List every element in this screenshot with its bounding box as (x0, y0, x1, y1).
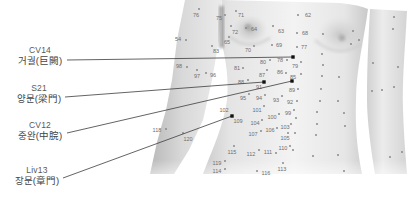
acupoint-dot (286, 59, 288, 61)
acupoint-dot (300, 61, 302, 63)
acupoint-dot (287, 132, 289, 134)
acupoint-number: 86 (277, 69, 283, 75)
acupoint-number: 113 (278, 166, 287, 172)
acupoint-number: 106 (265, 127, 274, 133)
acupoint-number: 111 (264, 149, 272, 155)
acupoint-number: 89 (289, 87, 295, 93)
acupoint-number: 54 (175, 36, 181, 42)
marker-cv14[interactable] (291, 55, 294, 58)
acupoint-dot (296, 46, 298, 48)
point-code: CV12 (8, 120, 72, 130)
acupoint-dot (343, 112, 345, 114)
acupoint-dot (245, 27, 247, 29)
acupoint-number: 78 (277, 57, 283, 63)
acupoint-dot (272, 25, 274, 27)
acupoint-dot (228, 36, 230, 38)
acupoint-dot (261, 119, 263, 121)
acupoint-number: 75 (216, 15, 222, 21)
acupoint-dot (293, 109, 295, 111)
acupoint-number: 102 (219, 107, 228, 113)
acupoint-dot (224, 14, 226, 16)
acupoint-dot (320, 88, 322, 90)
acupoint-dot (247, 79, 249, 81)
acupoint-dot (393, 86, 395, 88)
acupoint-number: 120 (183, 136, 192, 142)
acupoint-dot (295, 117, 297, 119)
left-arm (150, 0, 222, 174)
acupoint-number: 97 (194, 73, 200, 79)
acupoint-number: 83 (213, 48, 219, 54)
acupoint-number: 92 (287, 99, 293, 105)
acupoint-number: 109 (233, 118, 242, 124)
acupoint-number: 69 (276, 42, 282, 48)
acupoint-dot (393, 16, 395, 18)
acupoint-dot (230, 25, 232, 27)
acupoint-figure: 7654989796118120757172646583636268697770… (0, 0, 413, 199)
acupoint-dot (397, 66, 399, 68)
acupoint-dot (275, 152, 277, 154)
acupoint-number: 94 (256, 95, 262, 101)
acupoint-dot (401, 151, 403, 153)
acupoint-number: 79 (292, 63, 298, 69)
point-name: 거궐(巨闕) (8, 55, 72, 66)
acupoint-number: 65 (224, 39, 230, 45)
acupoint-dot (337, 100, 339, 102)
acupoint-dot (271, 44, 273, 46)
acupoint-dot (196, 69, 198, 71)
acupoint-dot (381, 89, 383, 91)
acupoint-number: 72 (232, 29, 238, 35)
acupoint-dot (321, 53, 323, 55)
bottom-fade (140, 160, 413, 176)
acupoint-number: 105 (280, 135, 289, 141)
annotation-cv14: CV14 거궐(巨闕) (8, 45, 72, 66)
acupoint-dot (263, 105, 265, 107)
acupoint-dot (392, 28, 394, 30)
acupoint-number: 114 (213, 168, 222, 174)
acupoint-dot (296, 32, 298, 34)
acupoint-dot (276, 127, 278, 129)
acupoint-dot (319, 100, 321, 102)
point-code: S21 (7, 83, 71, 93)
acupoint-dot (281, 95, 283, 97)
acupoint-number: 119 (213, 160, 222, 166)
acupoint-number: 76 (193, 12, 199, 18)
annotation-s21: S21 양문(梁門) (7, 83, 71, 104)
acupoint-dot (292, 149, 294, 151)
acupoint-dot (316, 111, 318, 113)
acupoint-dot (350, 43, 352, 45)
point-name: 중완(中脘) (8, 130, 72, 141)
acupoint-number: 96 (210, 72, 216, 78)
acupoint-dot (282, 162, 284, 164)
acupoint-dot (235, 10, 237, 12)
acupoint-number: 80 (260, 59, 266, 65)
acupoint-number: 104 (250, 120, 259, 126)
acupoint-number: 64 (251, 26, 257, 32)
acupoint-number: 68 (302, 30, 308, 36)
acupoint-dot (389, 156, 391, 158)
acupoint-number: 99 (285, 110, 291, 116)
acupoint-dot (224, 160, 226, 162)
marker-cv12[interactable] (290, 79, 293, 82)
acupoint-dot (322, 64, 324, 66)
acupoint-dot (371, 90, 373, 92)
acupoint-number: 112 (247, 151, 256, 157)
acupoint-dot (266, 69, 268, 71)
acupoint-dot (322, 33, 324, 35)
acupoint-dot (224, 168, 226, 170)
acupoint-number: 87 (259, 72, 265, 78)
acupoint-dot (260, 130, 262, 132)
point-code: CV14 (8, 45, 72, 55)
acupoint-number: 101 (252, 107, 261, 113)
acupoint-dot (198, 8, 200, 10)
acupoint-number: 100 (267, 114, 276, 120)
marker-s21[interactable] (262, 80, 265, 83)
acupoint-dot (186, 66, 188, 68)
right-arm (367, 9, 407, 174)
right-nipple (339, 35, 345, 41)
marker-liv13[interactable] (230, 114, 233, 117)
acupoint-dot (269, 59, 271, 61)
acupoint-number: 63 (278, 28, 284, 34)
acupoint-dot (205, 72, 207, 74)
acupoint-dot (296, 100, 298, 102)
acupoint-number: 62 (305, 12, 311, 18)
